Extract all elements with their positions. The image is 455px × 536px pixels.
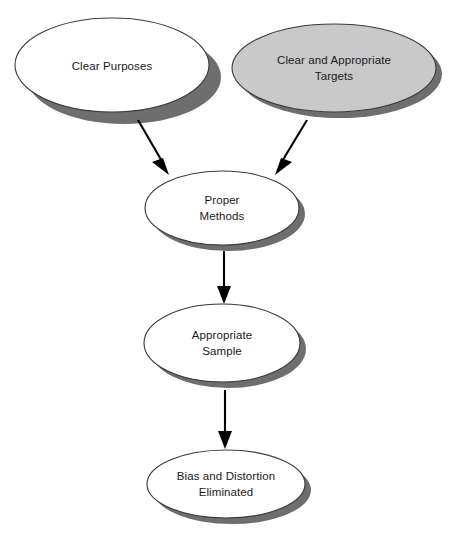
edge-proper-methods-to-appropriate-sample [217,251,231,304]
node-appropriate-sample[interactable]: Appropriate Sample [144,304,306,388]
node-label-line2: Methods [200,210,245,222]
arrow-head [275,158,292,175]
node-label-line1: Clear Purposes [72,60,153,72]
node-label-line1: Bias and Distortion [177,470,275,482]
node-proper-methods[interactable]: Proper Methods [145,171,305,251]
node-clear-purposes[interactable]: Clear Purposes [15,18,221,124]
node-body [232,24,436,112]
node-body [147,450,305,518]
edge-clear-purposes-to-proper-methods [138,120,169,175]
arrow-shaft [138,120,163,163]
node-label-line1: Proper [204,194,239,206]
diagram-canvas: Clear Purposes Clear and Appropriate Tar… [0,0,455,536]
node-label-line2: Targets [315,70,354,82]
arrow-head [152,158,169,175]
edge-appropriate-sample-to-bias [218,390,232,449]
edge-targets-to-proper-methods [275,120,307,175]
arrow-shaft [281,120,307,163]
arrow-head [218,431,232,449]
arrow-head [217,286,231,304]
flowchart-diagram: Clear Purposes Clear and Appropriate Tar… [0,0,455,536]
node-body [145,171,299,245]
node-clear-and-appropriate-targets[interactable]: Clear and Appropriate Targets [232,24,442,118]
node-label-line1: Appropriate [192,329,253,341]
node-label-line2: Eliminated [199,486,254,498]
node-label-line1: Clear and Appropriate [277,54,391,66]
node-body [144,304,300,382]
node-label-line2: Sample [202,345,242,357]
node-bias-and-distortion-eliminated[interactable]: Bias and Distortion Eliminated [147,450,311,524]
